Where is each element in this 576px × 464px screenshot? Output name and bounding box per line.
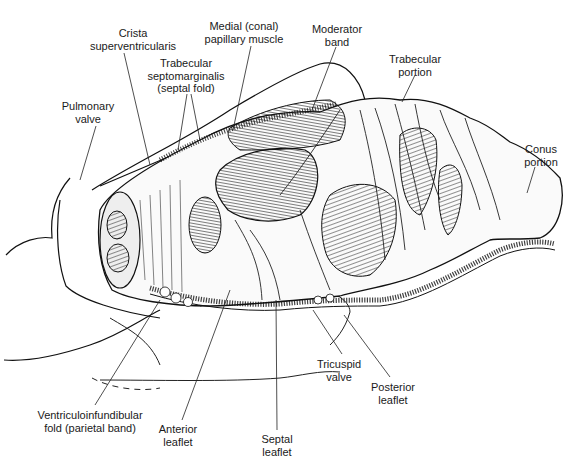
label-pulmonary-valve: Pulmonary valve [62,100,115,125]
label-tricuspid-valve: Tricuspid valve [317,358,361,383]
label-line: leaflet [261,446,292,459]
label-trabecular-portion: Trabecular portion [389,53,441,78]
label-line: (septal fold) [147,82,224,95]
label-line: Septal [261,433,292,446]
label-septal-leaflet: Septal leaflet [261,433,292,458]
label-line: portion [389,66,441,79]
label-line: leaflet [159,436,198,449]
label-posterior-leaflet: Posterior leaflet [371,381,415,406]
label-ventriculoinfundibular-fold: Ventriculoinfundibular fold (parietal ba… [37,409,142,434]
label-medial-papillary-muscle: Medial (conal) papillary muscle [205,20,284,45]
label-line: leaflet [371,394,415,407]
heart-illustration [0,0,576,464]
ventricle-body [99,98,563,310]
label-line: Posterior [371,381,415,394]
label-line: Pulmonary [62,100,115,113]
pulmonary-valve-opening [100,192,140,288]
label-line: papillary muscle [205,33,284,46]
label-line: Tricuspid [317,358,361,371]
label-line: portion [524,156,558,169]
label-line: Medial (conal) [205,20,284,33]
label-line: fold (parietal band) [37,422,142,435]
label-line: band [312,36,362,49]
label-crista-superventricularis: Crista superventricularis [90,27,176,52]
label-line: Trabecular [147,57,224,70]
label-line: Ventriculoinfundibular [37,409,142,422]
label-line: septomarginalis [147,70,224,83]
label-line: Anterior [159,423,198,436]
label-trabecular-septomarginalis: Trabecular septomarginalis (septal fold) [147,57,224,95]
label-line: superventricularis [90,40,176,53]
label-moderator-band: Moderator band [312,23,362,48]
label-anterior-leaflet: Anterior leaflet [159,423,198,448]
label-line: Crista [90,27,176,40]
label-line: Trabecular [389,53,441,66]
label-line: Moderator [312,23,362,36]
label-line: valve [62,113,115,126]
label-line: valve [317,371,361,384]
label-conus-portion: Conus portion [524,143,558,168]
label-line: Conus [524,143,558,156]
